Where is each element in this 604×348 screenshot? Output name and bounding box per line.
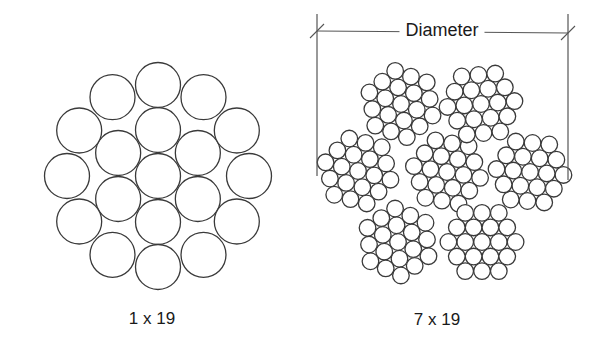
wire — [453, 68, 470, 85]
wire — [439, 99, 456, 116]
wire — [495, 176, 512, 193]
wire — [449, 248, 466, 265]
wire — [499, 248, 516, 265]
wire — [136, 63, 181, 108]
wire — [474, 234, 491, 251]
wire — [45, 154, 90, 199]
wire — [497, 79, 514, 96]
strand-left — [317, 130, 399, 212]
wire — [499, 108, 516, 125]
wire — [427, 132, 444, 149]
wire — [502, 191, 519, 208]
wire — [378, 155, 395, 172]
wire — [482, 248, 499, 265]
wire — [519, 193, 536, 210]
strand-1x19-cross-section — [45, 63, 272, 290]
wire — [418, 74, 435, 91]
wire — [181, 232, 226, 277]
wire — [322, 170, 339, 187]
wire — [457, 205, 474, 222]
wire — [434, 192, 451, 209]
wire — [358, 195, 375, 212]
wire-rope-diagram — [0, 0, 604, 348]
wire — [361, 236, 378, 253]
wire — [393, 267, 410, 284]
rope-7x19-cross-section — [317, 63, 572, 284]
wire — [465, 248, 482, 265]
wire — [421, 91, 438, 108]
wire — [536, 194, 553, 211]
wire — [470, 67, 487, 84]
wire — [383, 123, 400, 140]
wire — [417, 189, 434, 206]
wire — [491, 263, 508, 280]
wire — [548, 151, 565, 168]
wire — [373, 139, 390, 156]
wire — [136, 154, 181, 199]
wire — [465, 219, 482, 236]
wire — [403, 68, 420, 85]
wire — [474, 205, 491, 222]
wire — [367, 117, 384, 134]
wire — [90, 232, 135, 277]
wire — [446, 83, 463, 100]
wire — [457, 234, 474, 251]
wire — [57, 199, 102, 244]
wire — [214, 199, 259, 244]
label-1x19: 1 x 19 — [129, 309, 175, 329]
wire — [377, 260, 394, 277]
wire — [475, 125, 492, 142]
wire — [214, 108, 259, 153]
wire — [136, 108, 181, 153]
strand-top-right — [439, 65, 523, 143]
wire — [482, 219, 499, 236]
wire — [466, 154, 483, 171]
strand-bottom-left — [359, 200, 437, 284]
wire — [364, 101, 381, 118]
wire — [417, 214, 434, 231]
wire — [227, 154, 272, 199]
wire — [90, 75, 135, 120]
wire — [341, 130, 358, 147]
wire — [440, 234, 457, 251]
wire — [342, 191, 359, 208]
wire — [387, 200, 404, 217]
wire — [541, 136, 558, 153]
diameter-label: Diameter — [399, 20, 484, 41]
label-7x19: 7 x 19 — [414, 310, 460, 330]
wire — [491, 234, 508, 251]
wire — [357, 135, 374, 152]
wire — [411, 174, 428, 191]
wire — [96, 177, 141, 222]
wire — [444, 135, 461, 152]
wire — [326, 186, 343, 203]
wire — [136, 245, 181, 290]
wire — [387, 63, 404, 80]
strand-bottom-right — [440, 205, 524, 280]
wire — [175, 131, 220, 176]
wire — [181, 75, 226, 120]
wire — [175, 177, 220, 222]
wire — [499, 219, 516, 236]
wire — [362, 253, 379, 270]
wire — [449, 219, 466, 236]
wire — [402, 207, 419, 224]
strand-center — [406, 132, 489, 212]
wire — [524, 135, 541, 152]
wire — [507, 234, 524, 251]
wire — [492, 123, 509, 140]
strand-right — [488, 133, 572, 211]
wire — [136, 200, 181, 245]
wire — [474, 263, 491, 280]
wire — [491, 205, 508, 222]
wire — [399, 129, 416, 146]
wire — [419, 231, 436, 248]
wire — [96, 131, 141, 176]
strand-top-left — [361, 63, 441, 146]
wire — [508, 133, 525, 150]
wire — [457, 263, 474, 280]
wire — [57, 108, 102, 153]
